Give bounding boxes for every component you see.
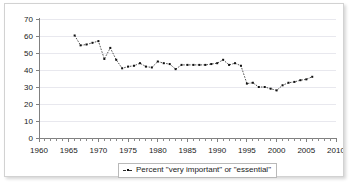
data-point-marker	[276, 89, 278, 91]
data-point-marker	[86, 44, 88, 46]
data-point-marker	[74, 34, 76, 36]
x-axis-tick-label: 1995	[238, 146, 256, 155]
x-axis-tick-label: 2000	[268, 146, 286, 155]
data-point-marker	[264, 86, 266, 88]
data-point-marker	[258, 86, 260, 88]
data-point-marker	[121, 67, 123, 69]
y-axis-tick-label: 10	[24, 117, 33, 126]
data-point-marker	[175, 68, 177, 70]
data-point-marker	[139, 62, 141, 64]
data-point-marker	[287, 82, 289, 84]
x-axis-tick-label: 1965	[60, 146, 78, 155]
chart-legend: Percent "very important" or "essential"	[118, 163, 277, 178]
data-point-marker	[293, 81, 295, 83]
data-point-marker	[169, 63, 171, 65]
x-axis-tick-label: 1985	[179, 146, 197, 155]
data-point-marker	[270, 88, 272, 90]
line-chart-plot: 0102030405060701960196519701975198019851…	[5, 4, 343, 176]
data-point-marker	[163, 62, 165, 64]
data-point-marker	[252, 82, 254, 84]
data-point-marker	[198, 64, 200, 66]
data-point-marker	[187, 64, 189, 66]
data-point-marker	[91, 42, 93, 44]
data-point-marker	[151, 66, 153, 68]
x-axis-tick-label: 2010	[327, 146, 343, 155]
data-point-marker	[109, 47, 111, 49]
data-point-marker	[216, 62, 218, 64]
y-axis-tick-label: 0	[29, 134, 34, 143]
data-point-marker	[115, 59, 117, 61]
x-axis-tick-label: 1980	[149, 146, 167, 155]
x-axis-tick-label: 2005	[297, 146, 315, 155]
data-point-marker	[234, 62, 236, 64]
y-axis-tick-label: 40	[24, 66, 33, 75]
x-axis-tick-label: 1975	[119, 146, 137, 155]
data-point-marker	[246, 83, 248, 85]
data-point-marker	[282, 84, 284, 86]
data-point-marker	[103, 58, 105, 60]
x-axis-tick-label: 1970	[90, 146, 108, 155]
y-axis-tick-label: 50	[24, 49, 33, 58]
data-point-marker	[222, 59, 224, 61]
data-point-marker	[80, 44, 82, 46]
y-axis-tick-label: 20	[24, 100, 33, 109]
data-point-marker	[97, 40, 99, 42]
data-point-marker	[133, 65, 135, 67]
data-point-marker	[311, 76, 313, 78]
y-axis-tick-label: 30	[24, 83, 33, 92]
chart-frame: 0102030405060701960196519701975198019851…	[4, 3, 344, 177]
y-axis-tick-label: 70	[24, 15, 33, 24]
data-point-marker	[192, 64, 194, 66]
data-point-marker	[228, 64, 230, 66]
data-point-marker	[305, 78, 307, 80]
y-axis-tick-label: 60	[24, 32, 33, 41]
data-point-marker	[157, 61, 159, 63]
series-line	[75, 35, 313, 90]
data-point-marker	[181, 64, 183, 66]
data-point-marker	[299, 79, 301, 81]
data-point-marker	[145, 66, 147, 68]
x-axis-tick-label: 1990	[208, 146, 226, 155]
data-point-marker	[127, 66, 129, 68]
data-point-marker	[240, 65, 242, 67]
data-point-marker	[204, 64, 206, 66]
x-axis-tick-label: 1960	[30, 146, 48, 155]
data-point-marker	[210, 63, 212, 65]
legend-entry-label: Percent "very important" or "essential"	[136, 165, 271, 175]
legend-marker-icon	[123, 167, 132, 174]
